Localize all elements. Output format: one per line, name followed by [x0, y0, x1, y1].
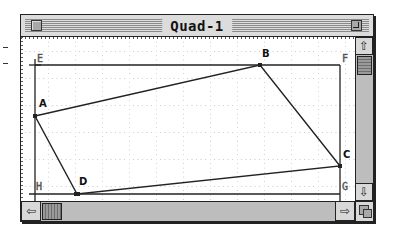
margin-tick [3, 63, 8, 64]
grid [23, 39, 355, 201]
label-b: B [262, 49, 270, 59]
scroll-right-arrow-icon[interactable]: ⇨ [335, 201, 355, 221]
label-a: A [39, 99, 47, 109]
size-box-icon[interactable] [355, 201, 373, 221]
scroll-left-arrow-icon[interactable]: ⇦ [21, 201, 41, 221]
horizontal-scrollbar[interactable]: ⇦ ⇨ [21, 201, 355, 221]
margin-tick [3, 47, 8, 48]
drawing [21, 37, 355, 201]
horizontal-scroll-thumb[interactable] [42, 203, 62, 220]
vertical-scroll-thumb[interactable] [357, 56, 372, 75]
vertical-scrollbar[interactable]: ⇧ ⇩ [355, 37, 373, 201]
point-b-handle[interactable] [258, 63, 262, 67]
title-stripes-left [25, 19, 177, 32]
label-c: C [343, 150, 350, 160]
close-box-icon[interactable] [31, 20, 42, 31]
title-stripes-right [217, 19, 369, 32]
label-e: E [37, 54, 43, 64]
scroll-down-arrow-icon[interactable]: ⇩ [355, 183, 373, 201]
label-h: H [36, 182, 42, 192]
size-box-front [363, 209, 372, 218]
point-d-handle[interactable] [74, 192, 80, 196]
point-c-handle[interactable] [338, 164, 342, 168]
quad-window: Quad-1 [20, 14, 374, 222]
label-g: G [342, 182, 348, 192]
title-bar[interactable]: Quad-1 [21, 15, 373, 37]
point-a-handle[interactable] [33, 114, 37, 118]
zoom-box-icon[interactable] [351, 20, 362, 31]
window-title: Quad-1 [162, 17, 232, 35]
geometry-canvas[interactable]: E F G H A B C D [21, 37, 355, 201]
label-d: D [79, 177, 87, 187]
label-f: F [342, 54, 348, 64]
scroll-up-arrow-icon[interactable]: ⇧ [355, 37, 373, 55]
